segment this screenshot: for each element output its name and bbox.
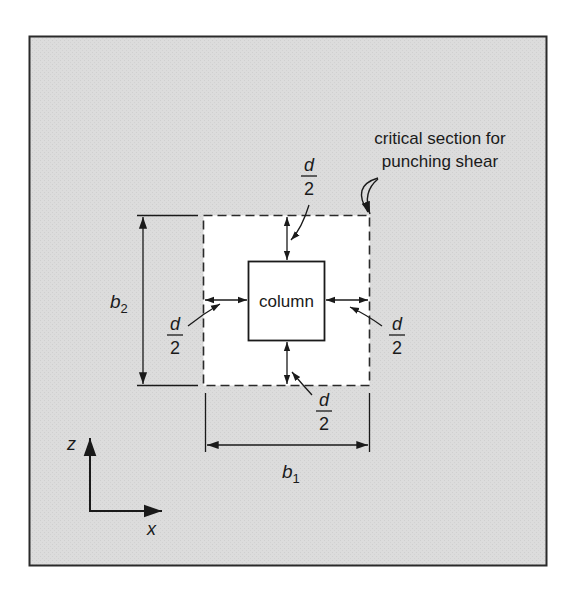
svg-text:critical section for: critical section for [374,129,506,148]
svg-text:d: d [170,314,181,334]
svg-text:d: d [392,314,403,334]
svg-text:d: d [319,390,330,410]
svg-text:2: 2 [319,414,329,434]
svg-text:2: 2 [392,338,402,358]
svg-text:d: d [304,155,315,175]
z-axis-label: z [66,434,76,454]
x-axis-label: x [146,519,157,539]
svg-text:2: 2 [170,338,180,358]
svg-text:2: 2 [304,179,314,199]
punching-shear-diagram: column d 2 d 2 d 2 d 2 critical section … [0,0,580,603]
svg-text:punching shear: punching shear [382,152,499,171]
column-label: column [259,292,314,311]
